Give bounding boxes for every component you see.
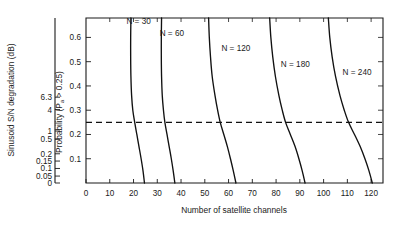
curve-label: N = 240 (343, 68, 372, 77)
x-axis: 0102030405060708090100110120 Number of s… (84, 179, 379, 215)
curve-30 (131, 18, 145, 183)
x-tick-label: 90 (295, 189, 305, 198)
x-tick-label: 70 (248, 189, 258, 198)
y-axis-inner-title-tail: > 0.25) (54, 71, 64, 100)
curve-label-group: N = 30N = 60N = 120N = 180N = 240 (126, 17, 372, 77)
x-tick-label-group: 0102030405060708090100110120 (84, 189, 379, 198)
x-tick-label: 60 (224, 189, 234, 198)
db-tick-label: 4 (47, 106, 52, 115)
curve-label: N = 60 (160, 29, 185, 38)
curve-120 (209, 18, 236, 183)
curve-240 (328, 18, 372, 183)
y-axis-inner-title: Probability (Pa > 0.25) (54, 71, 65, 153)
curve-60 (161, 18, 175, 183)
x-axis-title: Number of satellite channels (181, 205, 287, 215)
x-tick-label: 100 (317, 189, 331, 198)
y-axis-inner-title-main: Probability (P (54, 103, 64, 153)
curve-label: N = 120 (221, 44, 250, 53)
right-tick-group (378, 37, 383, 158)
curve-label: N = 180 (281, 60, 310, 69)
x-tick-label: 110 (341, 189, 354, 198)
probability-tick-label: 0.3 (70, 106, 82, 115)
curve-180 (270, 18, 305, 183)
figure-container: 00.050.10.150.20.5146.3 Sinusoid S/N deg… (0, 0, 396, 231)
x-tick-label: 10 (105, 189, 115, 198)
db-tick-label: 0.5 (41, 135, 53, 144)
db-tick-label-group: 00.050.10.150.20.5146.3 (36, 93, 52, 188)
x-tick-label: 80 (272, 189, 282, 198)
x-tick-label: 50 (200, 189, 210, 198)
curve-label: N = 30 (126, 17, 151, 26)
curve-group (131, 18, 373, 183)
probability-tick-label: 0.5 (70, 58, 82, 67)
probability-tick-label-group: 0.10.20.30.40.50.6 (70, 33, 82, 163)
y-axis-left-title: Sinusoid S/N degradation (dB) (6, 43, 16, 156)
probability-tick-label: 0.2 (70, 130, 82, 139)
left-db-axis: 00.050.10.150.20.5146.3 Sinusoid S/N deg… (6, 18, 60, 188)
x-tick-label: 40 (176, 189, 186, 198)
db-tick-label: 0.2 (41, 150, 53, 159)
probability-tick-group (86, 37, 91, 158)
x-tick-label: 30 (153, 189, 163, 198)
probability-tick-label: 0.1 (70, 155, 82, 164)
probability-tick-label: 0.6 (70, 33, 82, 42)
db-tick-label: 6.3 (41, 93, 53, 102)
x-tick-label: 20 (129, 189, 139, 198)
db-tick-label: 1 (47, 127, 52, 136)
probability-tick-label: 0.4 (70, 82, 82, 91)
satellite-channel-degradation-chart: 00.050.10.150.20.5146.3 Sinusoid S/N deg… (0, 0, 396, 231)
x-tick-label: 0 (84, 189, 89, 198)
x-tick-label: 120 (364, 189, 378, 198)
x-tick-group (86, 179, 371, 183)
